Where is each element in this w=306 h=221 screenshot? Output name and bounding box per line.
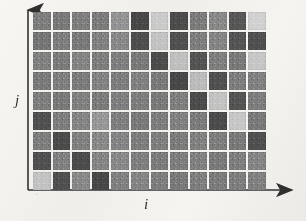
heatmap-cell [151,12,169,30]
heatmap-cell [72,72,90,90]
heatmap-cell [111,12,129,30]
heatmap-cell [111,152,129,170]
heatmap-cell [53,112,71,130]
heatmap-cell [53,72,71,90]
heatmap-cell [229,112,247,130]
heatmap-cell [209,72,227,90]
heatmap-cell [170,172,188,190]
heatmap-cell [72,32,90,50]
heatmap-cell [72,12,90,30]
heatmap-cell [111,112,129,130]
heatmap-cell [209,152,227,170]
heatmap-cell [33,112,51,130]
y-axis-label: j [15,92,19,109]
heatmap-cell [248,32,266,50]
heatmap-cell [151,172,169,190]
heatmap-cell [53,92,71,110]
heatmap-cell [209,92,227,110]
heatmap-cell [92,52,110,70]
heatmap-cell [190,92,208,110]
heatmap-cell [111,52,129,70]
heatmap-cell [248,132,266,150]
heatmap-cell [92,32,110,50]
heatmap-cell [151,92,169,110]
heatmap-cell [72,92,90,110]
heatmap-cell [170,12,188,30]
heatmap-cell [151,52,169,70]
heatmap-cell [131,52,149,70]
heatmap-cell [33,72,51,90]
heatmap-cell [209,12,227,30]
heatmap-cell [151,112,169,130]
heatmap-cell [92,152,110,170]
heatmap-cell [229,32,247,50]
heatmap-cell [190,52,208,70]
heatmap-cell [33,12,51,30]
heatmap-cell [190,32,208,50]
heatmap-cell [33,32,51,50]
heatmap-cell [229,92,247,110]
heatmap-cell [170,32,188,50]
heatmap-cell [92,12,110,30]
heatmap-cell [111,132,129,150]
figure-container: j i [0,0,306,221]
heatmap-cell [111,72,129,90]
heatmap-cell [111,32,129,50]
heatmap-cell [248,52,266,70]
heatmap-cell [190,72,208,90]
heatmap-cell [131,132,149,150]
heatmap-cell [53,172,71,190]
heatmap-cell [209,52,227,70]
heatmap-cell [131,152,149,170]
heatmap-cell [248,152,266,170]
heatmap-cell [53,152,71,170]
heatmap-cell [53,12,71,30]
heatmap-cell [33,172,51,190]
heatmap-cell [190,172,208,190]
heatmap-cell [170,52,188,70]
heatmap-cell [151,132,169,150]
heatmap-cell [190,152,208,170]
heatmap-cell [248,172,266,190]
heatmap-cell [72,132,90,150]
heatmap-cell [92,92,110,110]
heatmap-cell [33,52,51,70]
heatmap-cell [190,112,208,130]
heatmap-cell [92,132,110,150]
heatmap-cell [92,72,110,90]
heatmap-cell [190,12,208,30]
heatmap-cell [72,172,90,190]
heatmap-cell [151,72,169,90]
heatmap-cell [248,92,266,110]
heatmap-cell [53,32,71,50]
heatmap-cell [131,92,149,110]
heatmap-cell [170,112,188,130]
heatmap-cell [33,152,51,170]
heatmap-cell [229,172,247,190]
heatmap-cell [131,32,149,50]
heatmap-cell [190,132,208,150]
heatmap-cell [170,92,188,110]
heatmap-cell [53,132,71,150]
heatmap-cell [248,112,266,130]
heatmap-cell [151,32,169,50]
heatmap-cell [92,172,110,190]
heatmap-cell [248,72,266,90]
heatmap-cell [170,132,188,150]
heatmap-cell [170,72,188,90]
heatmap-cell [131,172,149,190]
heatmap-cell [72,152,90,170]
heatmap-cell [151,152,169,170]
heatmap-cell [209,132,227,150]
heatmap-cell [209,112,227,130]
heatmap-cell [229,152,247,170]
heatmap-cell [170,152,188,170]
heatmap-cell [72,52,90,70]
heatmap-cell [229,132,247,150]
heatmap-cell [209,172,227,190]
heatmap-cell [53,52,71,70]
heatmap-cell [229,72,247,90]
heatmap-cell [111,92,129,110]
heatmap-cell [131,112,149,130]
heatmap-cell [33,132,51,150]
